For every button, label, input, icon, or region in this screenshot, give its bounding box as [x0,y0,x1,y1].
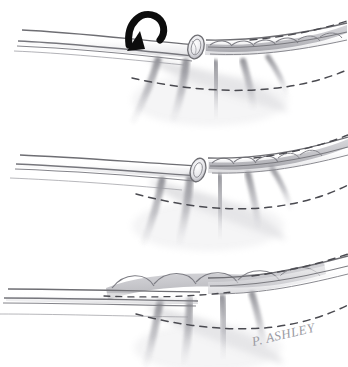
illustration-canvas: P. ASHLEY [0,0,348,367]
panel-2-graft-tube [18,158,196,178]
panel-2-suture-row [209,139,348,170]
panel-3-step-three [0,254,348,367]
surgical-illustration-figure: P. ASHLEY Graft tube end held open, rota… [0,0,348,367]
panel-1-step-one [14,14,347,126]
panel-2-step-two [10,135,348,251]
